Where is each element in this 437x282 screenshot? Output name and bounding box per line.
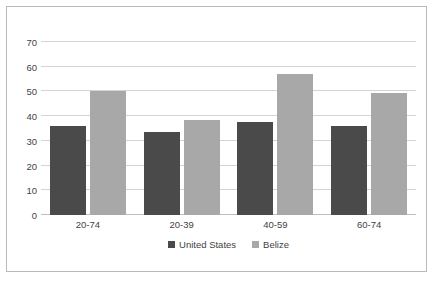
x-tick-label: 20-74 [76,219,100,230]
bar [237,122,273,215]
legend-entry: Belize [252,239,289,250]
x-tick-label: 40-59 [263,219,287,230]
y-tick-label: 0 [9,210,37,221]
y-tick-label: 40 [9,111,37,122]
bar [184,120,220,215]
y-tick-label: 10 [9,185,37,196]
x-tick-label: 60-74 [357,219,381,230]
bar [144,132,180,215]
plot-area [41,42,416,215]
x-tick-label: 20-39 [169,219,193,230]
y-tick-label: 50 [9,86,37,97]
y-tick-label: 30 [9,135,37,146]
chart-legend: United StatesBelize [41,239,416,250]
bar-group [41,42,135,215]
legend-swatch-icon [168,241,175,248]
bar-group [229,42,323,215]
bar [331,126,367,215]
y-axis: 010203040506070 [7,42,37,215]
bars-layer [41,42,416,215]
legend-label: United States [179,239,236,250]
chart-frame: 010203040506070 20-7420-3940-5960-74 Uni… [6,6,427,272]
bar-group [322,42,416,215]
legend-label: Belize [263,239,289,250]
bar [50,126,86,215]
bar-group [135,42,229,215]
x-axis: 20-7420-3940-5960-74 [41,219,416,235]
legend-swatch-icon [252,241,259,248]
y-tick-label: 70 [9,37,37,48]
bar [371,93,407,215]
y-tick-label: 60 [9,61,37,72]
bar [90,91,126,215]
legend-entry: United States [168,239,236,250]
bar [277,74,313,215]
y-tick-label: 20 [9,160,37,171]
